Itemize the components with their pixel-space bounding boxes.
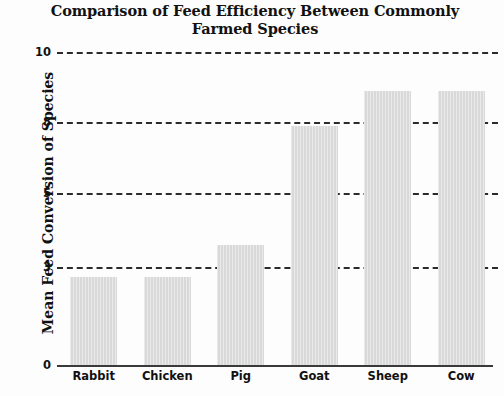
- x-axis-tick-label: Sheep: [368, 369, 408, 383]
- bar: [70, 277, 117, 365]
- y-axis-tick-label: 8: [43, 115, 51, 129]
- bar: [291, 126, 338, 365]
- y-axis-tick-label: 10: [35, 45, 51, 59]
- bar: [144, 277, 191, 365]
- x-axis-line: [57, 365, 493, 367]
- x-axis-tick-label: Pig: [230, 369, 251, 383]
- x-axis-tick-label: Rabbit: [72, 369, 115, 383]
- bar: [438, 91, 485, 366]
- chart-title: Comparison of Feed Efficiency Between Co…: [40, 2, 470, 38]
- y-axis-title: Mean Feed Conversion of Species: [40, 53, 56, 353]
- chart-title-line-1: Comparison of Feed Efficiency Between Co…: [40, 2, 470, 20]
- x-axis-tick-label: Goat: [299, 369, 330, 383]
- x-axis-tick-label: Cow: [448, 369, 475, 383]
- bar-chart: Comparison of Feed Efficiency Between Co…: [0, 0, 504, 396]
- y-axis-tick-label: 3: [43, 260, 51, 274]
- bar: [217, 245, 264, 365]
- x-axis-tick-labels: RabbitChickenPigGoatSheepCow: [57, 369, 498, 393]
- bars-layer: [57, 40, 498, 365]
- chart-title-line-2: Farmed Species: [40, 20, 470, 38]
- plot-area: 035810: [57, 40, 498, 365]
- y-axis-tick-label: 0: [43, 358, 51, 372]
- bar: [364, 91, 411, 366]
- x-axis-tick-label: Chicken: [142, 369, 193, 383]
- y-axis-tick-label: 5: [43, 186, 51, 200]
